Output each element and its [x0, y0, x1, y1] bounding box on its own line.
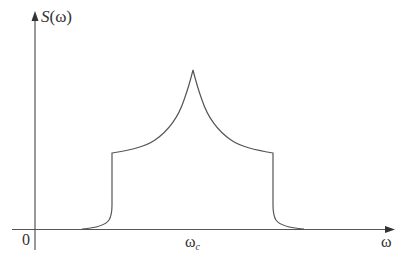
y-axis-label-symbol: S [41, 7, 50, 26]
center-frequency-symbol: ω [185, 233, 196, 250]
spectrum-diagram [0, 0, 408, 261]
y-axis-label-arg: (ω) [50, 7, 73, 26]
origin-label: 0 [22, 232, 30, 248]
y-axis-arrow-icon [32, 11, 39, 21]
y-axis-label: S(ω) [41, 8, 72, 25]
center-frequency-label: ωc [185, 234, 200, 252]
x-axis-arrow-icon [385, 226, 395, 233]
x-axis-label: ω [381, 234, 392, 250]
center-frequency-subscript: c [196, 241, 200, 252]
spectrum-curve [82, 70, 304, 229]
